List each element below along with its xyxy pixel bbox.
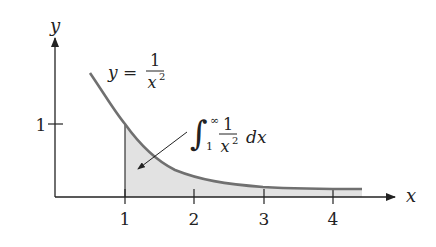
chart-figure: 1 2 3 4 1 y x y = 1 x 2 ∫ ∞ 1 1 x 2 dx xyxy=(0,0,436,247)
integral-numerator: 1 xyxy=(223,115,233,134)
y-tick-label-1: 1 xyxy=(36,115,47,135)
integral-denominator: x xyxy=(220,137,229,156)
integral-exponent: 2 xyxy=(232,135,238,146)
integral-label: ∫ ∞ 1 1 x 2 dx xyxy=(190,113,267,156)
x-tick-label-1: 1 xyxy=(120,209,131,229)
x-axis-label: x xyxy=(406,185,416,206)
curve-equation-label: y = 1 x 2 xyxy=(107,51,165,92)
integral-lower: 1 xyxy=(206,140,213,153)
curve-numerator: 1 xyxy=(150,51,160,70)
x-tick-label-3: 3 xyxy=(259,209,270,229)
integral-upper: ∞ xyxy=(210,114,219,127)
y-axis-label: y xyxy=(49,15,61,36)
x-tick-label-2: 2 xyxy=(189,209,200,229)
chart-svg: 1 2 3 4 1 y x y = 1 x 2 ∫ ∞ 1 1 x 2 dx xyxy=(0,0,436,247)
curve-exponent: 2 xyxy=(159,71,165,82)
integral-dx: dx xyxy=(246,127,267,147)
x-tick-label-4: 4 xyxy=(328,209,339,229)
curve-denominator: x xyxy=(147,73,156,92)
curve-lhs: y = xyxy=(107,62,137,82)
